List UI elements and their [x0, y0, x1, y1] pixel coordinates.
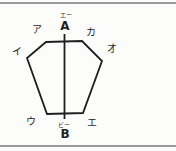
- label-vertex-bottom-right: エ: [87, 118, 97, 128]
- label-vertex-right: オ: [107, 44, 117, 54]
- label-a-furigana: エー: [60, 12, 72, 18]
- label-vertex-top-right: カ: [86, 28, 96, 38]
- worksheet-figure: エー A ア カ イ オ ウ エ ビー B: [0, 0, 176, 151]
- pentagon-diagram: [0, 0, 176, 151]
- label-vertex-bottom-left: ウ: [26, 117, 36, 127]
- label-vertex-top-left: ア: [32, 25, 42, 35]
- label-point-b: B: [60, 128, 69, 140]
- label-point-a: A: [60, 20, 69, 32]
- label-vertex-left: イ: [12, 47, 22, 57]
